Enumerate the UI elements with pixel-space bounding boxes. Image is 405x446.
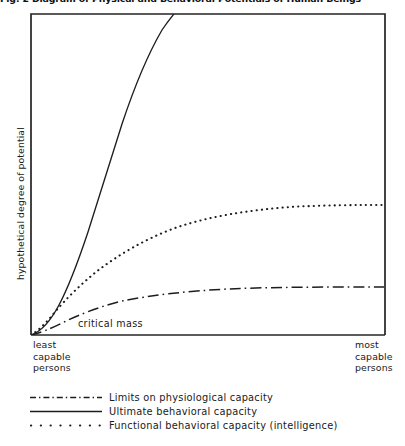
chart-canvas: [0, 0, 405, 446]
legend-swatch-dotted-line-icon: [30, 419, 102, 431]
plot-frame: [31, 14, 385, 335]
x-axis-label-right-line2: capable: [355, 351, 393, 363]
legend-swatch-dash-dot-line-icon: [30, 391, 102, 403]
x-axis-label-left-line1: least: [33, 339, 71, 351]
x-axis-label-right-line1: most: [355, 339, 393, 351]
legend-label-ultimate-behavioral-capacity: Ultimate behavioral capacity: [102, 406, 257, 417]
x-axis-label-left: least capable persons: [33, 339, 71, 374]
x-axis-label-right-line3: persons: [355, 362, 393, 374]
x-axis-label-right: most capable persons: [355, 339, 393, 374]
legend-item-limits-on-physiological-capacity: Limits on physiological capacity: [30, 390, 402, 404]
legend-label-limits-on-physiological-capacity: Limits on physiological capacity: [102, 392, 273, 403]
y-axis-label: hypothetical degree of potential: [14, 266, 194, 280]
legend-item-ultimate-behavioral-capacity: Ultimate behavioral capacity: [30, 404, 402, 418]
legend-label-functional-behavioral-capacity: Functional behavioral capacity (intellig…: [102, 420, 338, 431]
x-axis-label-left-line2: capable: [33, 351, 71, 363]
x-axis-label-left-line3: persons: [33, 362, 71, 374]
legend-item-functional-behavioral-capacity: Functional behavioral capacity (intellig…: [30, 418, 402, 432]
chart-figure: hypothetical degree of potential critica…: [0, 0, 405, 446]
chart-legend: Limits on physiological capacity Ultimat…: [30, 390, 402, 432]
series-ultimate-behavioral-capacity: [31, 6, 180, 335]
critical-mass-annotation: critical mass: [78, 318, 143, 329]
legend-swatch-solid-line-icon: [30, 405, 102, 417]
